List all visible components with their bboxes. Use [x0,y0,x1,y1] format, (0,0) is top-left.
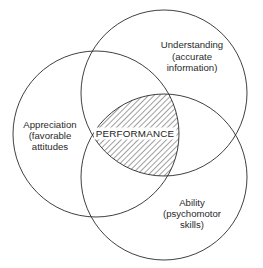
label-ability: Ability (psychomotor skills) [163,197,222,230]
venn-diagram: Understanding (accurate information) App… [0,0,263,268]
label-understanding: Understanding (accurate information) [161,39,223,73]
performance-label: PERFORMANCE [96,128,175,139]
performance-region [81,94,247,260]
label-appreciation-line-3: attitudes [32,141,68,152]
label-appreciation-line-1: Appreciation [23,119,76,130]
label-appreciation-line-2: (favorable [29,130,72,141]
label-ability-line-1: Ability [179,197,205,208]
label-ability-line-3: skills) [180,219,204,230]
label-understanding-line-1: Understanding [161,39,223,50]
label-understanding-line-3: information) [167,62,218,73]
label-ability-line-2: (psychomotor [163,208,222,219]
label-appreciation: Appreciation (favorable attitudes [23,119,76,152]
label-understanding-line-2: (accurate [172,51,212,62]
